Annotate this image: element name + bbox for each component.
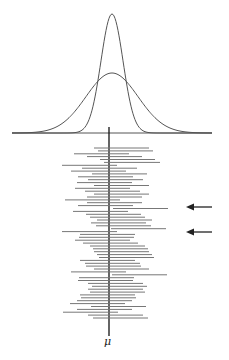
distribution-curves	[12, 14, 212, 133]
wide-normal-curve	[12, 73, 212, 133]
arrow-left-icon	[186, 204, 194, 211]
mean-label: μ	[104, 335, 111, 348]
arrows	[186, 204, 212, 236]
confidence-interval-diagram	[0, 0, 229, 360]
interval-lines	[62, 148, 168, 318]
arrow-left-icon	[186, 229, 194, 236]
